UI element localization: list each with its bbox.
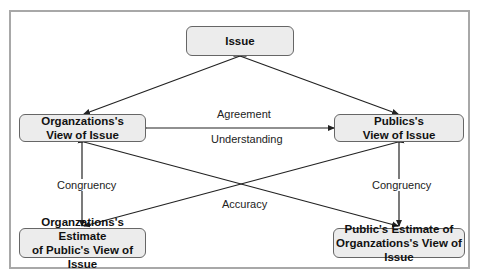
edge-issue-org <box>84 56 240 114</box>
node-org-view-line1: Organzations's <box>41 114 124 128</box>
node-org-est-line2: of Public's View of Issue <box>20 243 145 271</box>
node-publics-view: Publics's View of Issue <box>334 114 464 142</box>
node-org-view-line2: View of Issue <box>46 128 119 142</box>
node-issue: Issue <box>186 26 294 56</box>
node-pub-est-line1: Public's Estimate of <box>345 222 454 236</box>
node-public-estimate-of-org: Public's Estimate of Organzations's View… <box>333 228 465 258</box>
node-pub-view-line2: View of Issue <box>363 128 436 142</box>
label-agreement: Agreement <box>215 108 273 120</box>
label-accuracy: Accuracy <box>220 198 269 210</box>
node-org-est-line1: Organzations's Estimate <box>20 215 145 243</box>
label-understanding: Understanding <box>209 133 285 145</box>
node-org-estimate-of-public: Organzations's Estimate of Public's View… <box>19 228 146 258</box>
node-organizations-view: Organzations's View of Issue <box>19 114 146 142</box>
node-pub-est-line2: Organzations's View of Issue <box>334 236 464 264</box>
label-congruency-right: Congruency <box>370 179 433 191</box>
label-congruency-left: Congruency <box>55 179 118 191</box>
edge-issue-pub <box>240 56 398 114</box>
node-issue-label: Issue <box>225 34 254 48</box>
node-pub-view-line1: Publics's <box>374 114 424 128</box>
